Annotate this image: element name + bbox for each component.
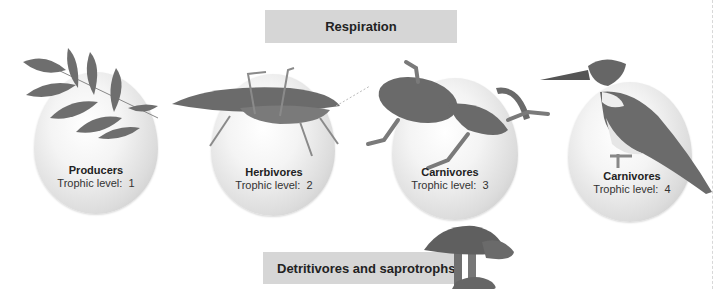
producers-label: Producers Trophic level: 1 [26, 164, 166, 190]
trophic-level-text: Trophic level: 4 [562, 183, 702, 196]
trophic-level-text: Trophic level: 1 [26, 177, 166, 190]
trophic-level-text: Trophic level: 3 [380, 179, 520, 192]
group-name: Carnivores [380, 166, 520, 179]
carnivores-4-label: Carnivores Trophic level: 4 [562, 170, 702, 196]
carnivores-3-label: Carnivores Trophic level: 3 [380, 166, 520, 192]
katydid-icon [170, 66, 370, 146]
respiration-label: Respiration [325, 19, 397, 34]
group-name: Producers [26, 164, 166, 177]
leaves-icon [18, 40, 168, 140]
group-name: Carnivores [562, 170, 702, 183]
group-name: Herbivores [204, 166, 344, 179]
frog-icon [358, 60, 558, 180]
mushroom-icon [422, 222, 522, 289]
trophic-level-text: Trophic level: 2 [204, 179, 344, 192]
herbivores-label: Herbivores Trophic level: 2 [204, 166, 344, 192]
respiration-box: Respiration [265, 10, 457, 43]
